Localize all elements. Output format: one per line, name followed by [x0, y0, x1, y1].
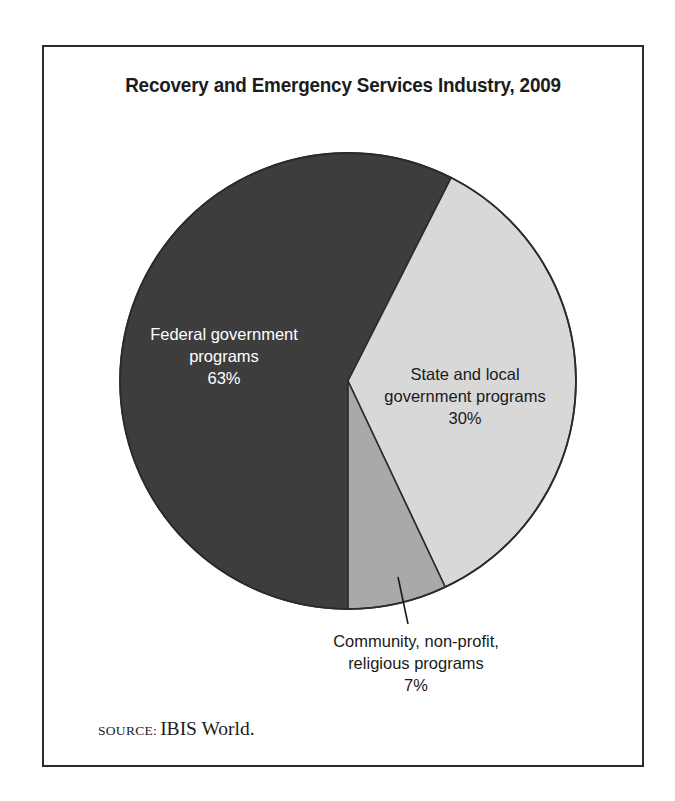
pie-label-community-line2: religious programs [348, 654, 484, 672]
source-note: Source:IBIS World. [98, 718, 255, 740]
pie-label-federal-line2: programs [189, 347, 259, 365]
source-value: IBIS World. [160, 718, 255, 739]
source-label: Source: [98, 723, 157, 738]
pie-label-community: Community, non-profit, religious program… [333, 632, 499, 694]
pie-label-federal-value: 63% [207, 369, 240, 387]
pie-slice-community-non-profit-religious-programs[interactable] [348, 381, 445, 609]
pie-label-federal-line1: Federal government [150, 325, 298, 343]
figure-root: Recovery and Emergency Services Industry… [0, 0, 675, 801]
pie-label-community-line1: Community, non-profit, [333, 632, 499, 650]
figure-frame: Recovery and Emergency Services Industry… [42, 45, 644, 767]
pie-label-state-local-value: 30% [448, 409, 481, 427]
pie-label-community-value: 7% [404, 676, 428, 694]
pie-slice-federal-government-programs[interactable] [120, 153, 451, 609]
pie-label-state-local: State and local government programs 30% [384, 365, 545, 427]
pie-slice-state-and-local-government-programs[interactable] [348, 178, 576, 587]
chart-title: Recovery and Emergency Services Industry… [68, 73, 618, 97]
pie-label-state-local-line1: State and local [410, 365, 519, 383]
pie-label-federal: Federal government programs 63% [150, 325, 298, 387]
community-leader-line [398, 577, 408, 624]
pie-chart-area: Federal government programs 63% State an… [2, 2, 675, 801]
pie-outline [120, 153, 576, 609]
pie-chart-svg: Federal government programs 63% State an… [2, 2, 675, 801]
pie-label-state-local-line2: government programs [384, 387, 545, 405]
